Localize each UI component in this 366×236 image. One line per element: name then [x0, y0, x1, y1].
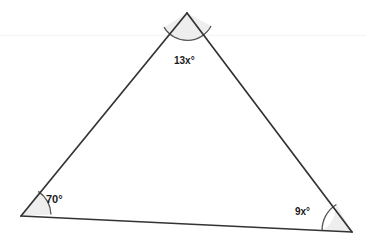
- bottom-left-angle-label: 70°: [46, 194, 63, 205]
- apex-angle-label: 13x°: [174, 56, 195, 66]
- triangle-side-base: [21, 216, 352, 232]
- triangle-side-right: [187, 13, 352, 232]
- bottom-right-angle-sector-fill: [322, 205, 352, 233]
- diagram-canvas: 13x° 70° 9x°: [0, 0, 366, 236]
- bottom-right-angle-label: 9x°: [295, 207, 310, 217]
- triangle-side-left: [21, 13, 187, 216]
